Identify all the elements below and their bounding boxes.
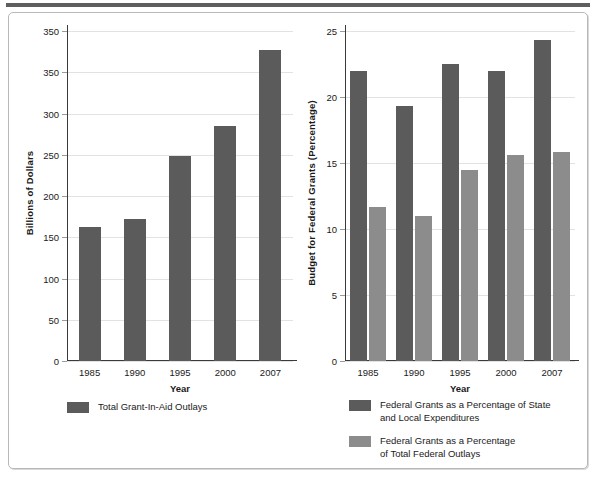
legend-label: Federal Grants as a Percentage of Statea… <box>380 399 551 424</box>
gridline <box>345 361 575 362</box>
y-axis-tick-label: 0 <box>332 356 337 367</box>
y-axis-tick <box>340 361 345 362</box>
x-axis-tick-label: 2007 <box>248 367 293 378</box>
bar-group <box>437 31 483 361</box>
x-axis-tick-label: 1985 <box>67 367 112 378</box>
bar <box>350 71 367 361</box>
y-axis-tick-label: 200 <box>43 191 59 202</box>
left-chart-bars <box>67 31 293 361</box>
y-axis-tick-label: 50 <box>48 314 59 325</box>
top-rule-divider <box>6 3 590 7</box>
x-axis-tick-label: 2007 <box>529 367 575 378</box>
bar <box>124 219 146 361</box>
bar-group <box>483 31 529 361</box>
bar <box>442 64 459 361</box>
y-axis-tick-label: 250 <box>43 149 59 160</box>
legend-label: Federal Grants as a Percentageof Total F… <box>380 435 515 460</box>
left-chart-y-axis-title-text: Billions of Dollars <box>24 151 35 236</box>
bar <box>553 152 570 361</box>
x-axis-tick-label: 2000 <box>203 367 248 378</box>
bar <box>488 71 505 361</box>
bar-group <box>345 31 391 361</box>
right-chart-y-axis-title-text: Budget for Federal Grants (Percentage) <box>306 100 317 286</box>
chart-total-grant-in-aid-outlays: Billions of Dollars 05010015020025030035… <box>19 23 299 373</box>
bar-group <box>391 31 437 361</box>
legend-swatch <box>349 400 371 411</box>
bar <box>79 227 101 361</box>
y-axis-tick <box>62 361 67 362</box>
left-chart-plot-area: 050100150200250300350350 <box>67 31 293 361</box>
x-axis-tick-label: 1990 <box>112 367 157 378</box>
chart-federal-grants-percentage: Budget for Federal Grants (Percentage) 0… <box>301 23 581 373</box>
legend-item: Federal Grants as a Percentageof Total F… <box>349 435 585 460</box>
legend-label-line2: and Local Expenditures <box>380 412 551 425</box>
bar-group <box>203 31 248 361</box>
x-axis-tick-label: 2000 <box>483 367 529 378</box>
bar <box>507 155 524 361</box>
figure-page: Billions of Dollars 05010015020025030035… <box>0 0 596 478</box>
x-axis-tick-label: 1985 <box>345 367 391 378</box>
y-axis-tick-label: 15 <box>326 158 337 169</box>
legend-item: Total Grant-In-Aid Outlays <box>67 401 297 414</box>
bar-group <box>157 31 202 361</box>
bar-group <box>112 31 157 361</box>
figure-panel: Billions of Dollars 05010015020025030035… <box>8 12 588 469</box>
bar <box>169 156 191 361</box>
left-chart-y-axis-title: Billions of Dollars <box>21 23 37 363</box>
right-chart-bars <box>345 31 575 361</box>
x-axis-tick-label: 1990 <box>391 367 437 378</box>
legend-label-line2: of Total Federal Outlays <box>380 448 515 461</box>
y-axis-tick-label: 10 <box>326 224 337 235</box>
right-chart-y-axis-title: Budget for Federal Grants (Percentage) <box>303 23 319 363</box>
y-axis-tick-label: 5 <box>332 290 337 301</box>
bar-group <box>67 31 112 361</box>
bar <box>415 216 432 361</box>
legend-swatch <box>67 402 89 413</box>
right-chart-x-axis-title: Year <box>345 383 575 394</box>
y-axis-tick-label: 20 <box>326 92 337 103</box>
left-chart-legend: Total Grant-In-Aid Outlays <box>67 401 297 425</box>
left-chart-x-axis-title: Year <box>67 383 293 394</box>
bar <box>369 207 386 361</box>
bar <box>461 170 478 361</box>
bar <box>214 126 236 361</box>
right-chart-legend: Federal Grants as a Percentage of Statea… <box>349 399 585 471</box>
right-chart-x-axis-labels: 19851990199520002007 <box>345 367 575 378</box>
x-axis-tick-label: 1995 <box>157 367 202 378</box>
y-axis-tick-label: 300 <box>43 108 59 119</box>
legend-label: Total Grant-In-Aid Outlays <box>98 401 207 414</box>
bar-group <box>529 31 575 361</box>
right-chart-plot-area: 0510152025 <box>345 31 575 361</box>
y-axis-tick-label: 350 <box>43 67 59 78</box>
y-axis-tick-label: 150 <box>43 232 59 243</box>
charts-container: Billions of Dollars 05010015020025030035… <box>9 13 587 468</box>
y-axis-tick-label: 25 <box>326 26 337 37</box>
bar <box>259 50 281 361</box>
y-axis-tick-label: 350 <box>43 26 59 37</box>
bar <box>534 40 551 361</box>
legend-swatch <box>349 436 371 447</box>
y-axis-tick-label: 100 <box>43 273 59 284</box>
bar-group <box>248 31 293 361</box>
x-axis-tick-label: 1995 <box>437 367 483 378</box>
y-axis-tick-label: 0 <box>54 356 59 367</box>
legend-item: Federal Grants as a Percentage of Statea… <box>349 399 585 424</box>
gridline <box>67 361 293 362</box>
left-chart-x-axis-labels: 19851990199520002007 <box>67 367 293 378</box>
bar <box>396 106 413 361</box>
